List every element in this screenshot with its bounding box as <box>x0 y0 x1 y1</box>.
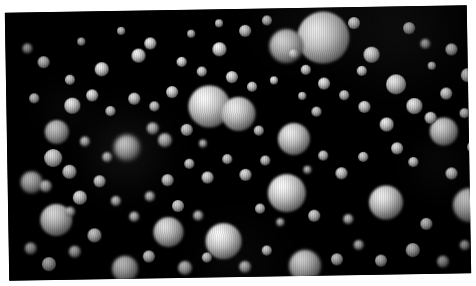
sphere <box>77 38 85 46</box>
sphere-layer <box>5 5 467 13</box>
sphere <box>145 191 155 201</box>
sphere <box>149 101 159 111</box>
sphere <box>94 175 106 187</box>
sphere <box>38 56 50 68</box>
sphere <box>172 200 184 212</box>
sphere <box>467 141 471 153</box>
sphere <box>278 123 311 156</box>
sphere <box>298 92 306 100</box>
sphere <box>212 42 226 56</box>
sphere <box>331 253 343 265</box>
vignette-overlay <box>5 5 471 281</box>
haze-glow <box>324 5 470 93</box>
sphere-field-render <box>5 5 471 281</box>
scanline-banding-overlay <box>5 5 471 281</box>
sphere <box>178 261 192 275</box>
sphere <box>158 133 172 147</box>
sphere <box>430 117 458 145</box>
sphere <box>289 250 322 281</box>
sphere <box>437 256 449 268</box>
screenshot-canvas <box>0 0 476 286</box>
sphere <box>375 255 387 267</box>
sphere <box>20 171 42 193</box>
sphere <box>262 15 272 25</box>
sphere <box>459 108 469 118</box>
sphere <box>65 207 75 217</box>
sphere <box>80 136 90 146</box>
sphere <box>420 218 432 230</box>
sphere <box>45 120 69 144</box>
sphere <box>69 246 81 258</box>
sphere <box>184 159 194 169</box>
sphere <box>64 98 80 114</box>
sphere <box>86 89 98 101</box>
sphere <box>105 106 115 116</box>
sphere <box>428 62 436 70</box>
sphere <box>343 214 353 224</box>
sphere <box>460 240 470 250</box>
sphere <box>131 49 145 63</box>
sphere <box>222 154 232 164</box>
haze-glow <box>252 5 358 67</box>
sphere <box>201 171 213 183</box>
sphere <box>87 228 101 242</box>
sphere <box>380 117 394 131</box>
haze-glow <box>403 131 471 200</box>
sphere <box>269 29 304 64</box>
sphere <box>354 240 364 250</box>
sphere <box>215 19 223 27</box>
sphere <box>199 140 207 148</box>
sphere <box>202 252 212 262</box>
sphere <box>102 152 112 162</box>
sphere <box>358 101 370 113</box>
sphere <box>166 86 178 98</box>
sphere <box>276 218 284 226</box>
sphere <box>420 39 430 49</box>
sphere <box>386 74 406 94</box>
sphere <box>445 43 457 55</box>
sphere <box>363 47 379 63</box>
sphere <box>197 67 207 77</box>
sphere <box>270 76 278 84</box>
sphere <box>335 167 347 179</box>
sphere <box>406 98 422 114</box>
sphere <box>143 250 155 262</box>
sphere <box>144 37 156 49</box>
sphere <box>268 174 307 213</box>
sphere <box>301 65 311 75</box>
sphere <box>193 211 203 221</box>
sphere <box>177 57 187 67</box>
sphere <box>129 212 139 222</box>
sphere <box>65 75 75 85</box>
haze-layer <box>5 5 467 13</box>
sphere <box>303 166 311 174</box>
sphere <box>188 85 231 128</box>
sphere <box>311 107 321 117</box>
sphere <box>445 167 457 179</box>
sphere <box>369 185 404 220</box>
sphere <box>339 90 349 100</box>
sphere <box>239 169 251 181</box>
sphere <box>239 261 251 273</box>
sphere <box>348 17 360 29</box>
sphere <box>25 242 37 254</box>
sphere <box>425 112 437 124</box>
sphere <box>308 210 320 222</box>
sphere <box>318 151 328 161</box>
sphere <box>73 191 87 205</box>
sphere <box>40 204 73 237</box>
sphere <box>40 180 52 192</box>
sphere <box>44 149 62 167</box>
haze-glow <box>192 212 286 281</box>
sphere <box>205 223 242 260</box>
sphere <box>226 71 238 83</box>
sphere <box>29 93 39 103</box>
sphere <box>221 97 256 132</box>
sphere <box>95 62 109 76</box>
sphere <box>111 196 121 206</box>
sphere <box>153 217 183 247</box>
sphere <box>318 77 330 89</box>
sphere <box>117 27 125 35</box>
sphere <box>288 49 298 59</box>
sphere <box>260 155 270 165</box>
